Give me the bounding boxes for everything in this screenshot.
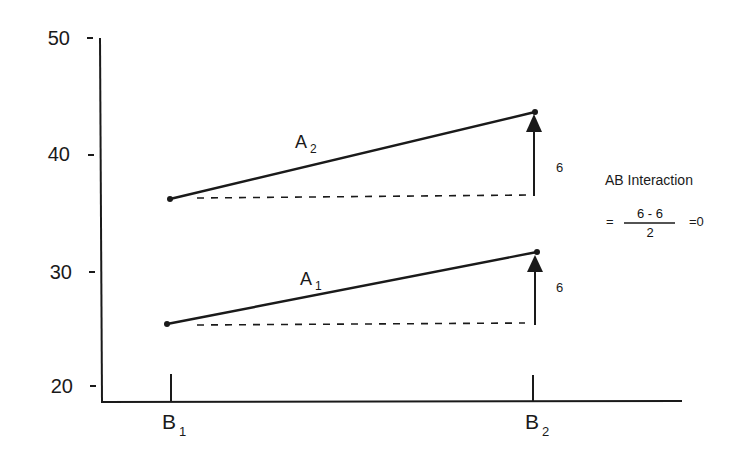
point-a1-b2: [534, 249, 540, 255]
interaction-numerator: 6 - 6: [624, 206, 676, 221]
x-axis: [101, 401, 682, 402]
series-label-a1: A1: [300, 269, 322, 293]
point-a2-b1: [167, 196, 173, 202]
y-tick-label-40: 40: [10, 143, 70, 166]
interaction-result: =0: [689, 214, 704, 229]
series-line-a2: [170, 112, 535, 199]
x-label-b2-sub: 2: [542, 424, 549, 439]
series-label-a2: A2: [295, 132, 317, 156]
y-axis: [100, 38, 102, 402]
diff-label-a2: 6: [556, 160, 563, 175]
y-tick-label-30: 30: [12, 261, 72, 284]
x-label-b2-main: B: [525, 410, 539, 433]
series-label-a2-sub: 2: [310, 142, 317, 156]
interaction-title: AB Interaction: [605, 172, 693, 188]
point-a2-b2: [532, 109, 538, 115]
arrow-head-icon: [526, 114, 542, 132]
y-tick-label-50: 50: [10, 27, 70, 50]
baseline-dashed-a2: [197, 195, 530, 198]
baseline-dashed-a1: [197, 323, 525, 325]
diff-label-a1: 6: [556, 280, 563, 295]
series-line-a1: [167, 252, 537, 324]
x-label-b1-sub: 1: [179, 424, 186, 439]
series-label-a1-main: A: [300, 269, 312, 289]
x-label-b1-main: B: [162, 410, 176, 433]
interaction-denominator: 2: [624, 225, 676, 240]
series-label-a2-main: A: [295, 132, 307, 152]
x-label-b1: B1: [162, 410, 186, 439]
point-a1-b1: [164, 321, 170, 327]
arrow-head-icon: [527, 255, 543, 272]
series-label-a1-sub: 1: [315, 279, 322, 293]
y-tick-label-20: 20: [13, 375, 73, 398]
interaction-equals: =: [606, 214, 614, 229]
x-label-b2: B2: [525, 410, 549, 439]
